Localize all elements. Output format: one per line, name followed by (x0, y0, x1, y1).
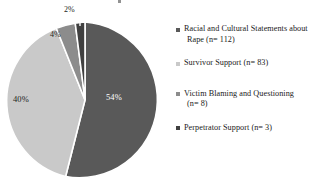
legend-marker-icon (176, 28, 180, 32)
legend-marker-icon (176, 126, 180, 130)
pie-chart-figure: 54% 40% 4% 2% Racial and Cultural Statem… (0, 0, 317, 189)
pie-plot-area: 54% 40% 4% 2% (0, 0, 175, 189)
pie-label-54-percent: 54% (106, 93, 122, 102)
chart-legend: Racial and Cultural Statements aboutRape… (176, 24, 317, 146)
legend-label-line2: (n= 8) (184, 99, 294, 110)
legend-label: Racial and Cultural Statements aboutRape… (184, 24, 308, 45)
legend-marker-icon (176, 92, 180, 96)
legend-item-survivor-support[interactable]: Survivor Support (n= 83) (176, 58, 317, 69)
pie-label-4-percent: 4% (50, 31, 61, 39)
pie-label-2-percent: 2% (64, 6, 75, 14)
legend-label: Victim Blaming and Questioning(n= 8) (184, 89, 294, 110)
legend-label: Perpetrator Support (n= 3) (184, 123, 272, 134)
legend-label: Survivor Support (n= 83) (184, 58, 268, 69)
legend-item-racial-cultural-statements[interactable]: Racial and Cultural Statements aboutRape… (176, 24, 317, 45)
legend-label-line2: Rape (n= 112) (184, 35, 308, 46)
pie-label-40-percent: 40% (13, 95, 29, 104)
legend-label-line1: Racial and Cultural Statements about (184, 24, 308, 33)
legend-item-victim-blaming-questioning[interactable]: Victim Blaming and Questioning(n= 8) (176, 89, 317, 110)
legend-label-line1: Victim Blaming and Questioning (184, 89, 294, 98)
legend-marker-icon (176, 62, 180, 66)
legend-item-perpetrator-support[interactable]: Perpetrator Support (n= 3) (176, 123, 317, 134)
